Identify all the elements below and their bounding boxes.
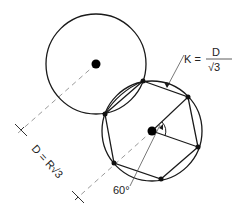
k-leader-line [167,55,184,87]
k-formula-lhs: K = [184,53,201,65]
dashed-center-line-upper [18,64,96,133]
k-arrowhead [164,82,170,88]
dimension-label: D = R√3 [30,142,66,180]
dimension-tick-lower [72,191,84,203]
lower-center-dot [148,127,157,136]
angle-label: 60° [113,184,130,196]
k-formula-numerator: D [212,46,220,58]
k-formula-denominator: √3 [208,61,220,73]
radius-line-lower [152,131,198,147]
dimension-tick-upper [15,124,27,136]
angle-arrowhead [159,124,163,130]
geometry-diagram: K = D √3 D = R√3 60° [0,0,246,214]
upper-center-dot [92,60,101,69]
radius-line-upper [152,97,188,131]
